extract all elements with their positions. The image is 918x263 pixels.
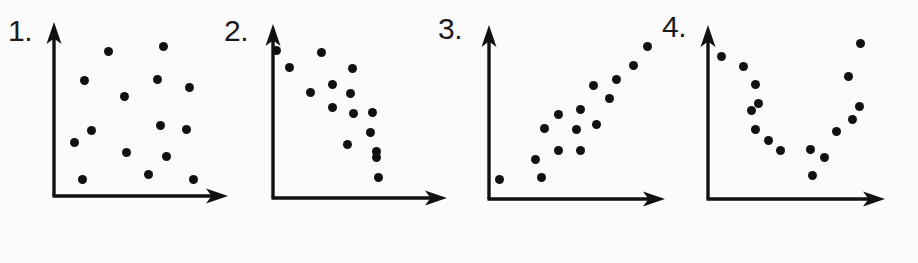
data-point: [739, 62, 748, 71]
data-point: [844, 72, 853, 81]
data-point: [754, 99, 763, 108]
axes-4: [0, 0, 918, 263]
data-point: [820, 153, 829, 162]
data-point: [747, 106, 756, 115]
scatter-panel-4: 4.: [0, 0, 918, 263]
data-point: [855, 102, 864, 111]
data-point: [751, 80, 760, 89]
data-point: [856, 39, 865, 48]
data-point: [806, 145, 815, 154]
data-point: [764, 136, 773, 145]
data-point: [776, 146, 785, 155]
scatterplot-figure: 1.2.3.4.: [0, 0, 918, 263]
data-point: [808, 171, 817, 180]
data-point: [717, 52, 726, 61]
